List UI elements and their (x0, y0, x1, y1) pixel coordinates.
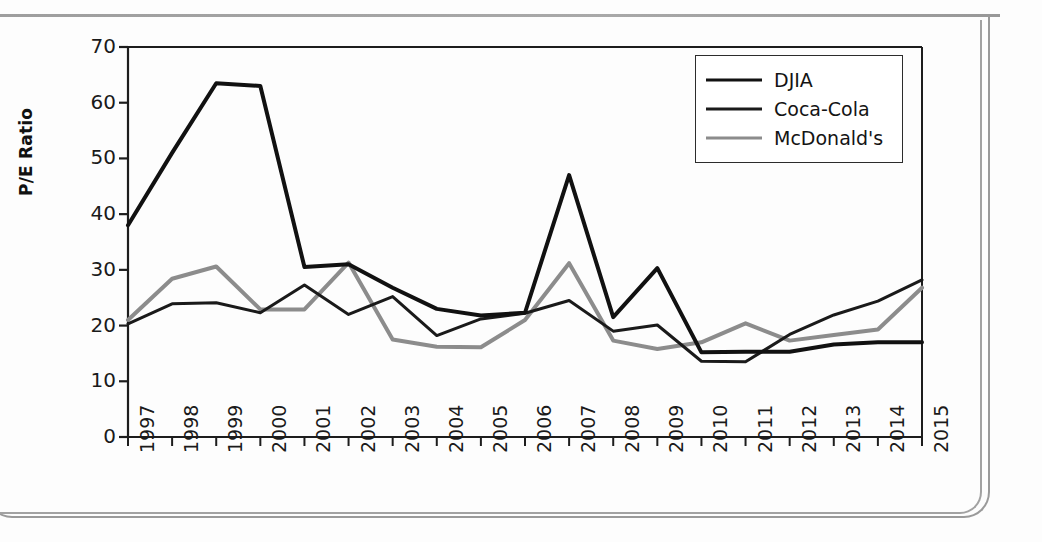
y-tick-label: 40 (91, 201, 116, 225)
x-tick-label: 2007 (577, 405, 599, 453)
pe-ratio-line-chart: P/E Ratio 706050403020100 19971998199920… (0, 0, 1042, 542)
legend-label-djia: DJIA (774, 69, 813, 91)
chart-legend: DJIA Coca-Cola McDonald's (695, 55, 903, 163)
x-tick-label: 2000 (268, 405, 290, 453)
legend-item-djia: DJIA (706, 65, 892, 94)
y-tick-label: 20 (91, 313, 116, 337)
y-tick-label: 30 (91, 257, 116, 281)
x-tick-label: 2015 (930, 405, 952, 453)
x-tick-label: 2006 (533, 405, 555, 453)
y-tick-label: 0 (103, 424, 116, 448)
x-tick-label: 1998 (180, 405, 202, 453)
x-tick-label: 2013 (842, 405, 864, 453)
x-tick-label: 2010 (709, 405, 731, 453)
legend-swatch-mcdonalds (706, 132, 762, 144)
series-line-mcdonald-s (128, 263, 922, 349)
legend-swatch-coca-cola (706, 103, 762, 115)
x-tick-label: 2005 (489, 405, 511, 453)
legend-label-mcdonalds: McDonald's (774, 127, 883, 149)
x-tick-label: 2004 (445, 405, 467, 453)
x-tick-label: 1999 (224, 405, 246, 453)
x-tick-label: 2014 (886, 405, 908, 453)
x-tick-label: 1997 (136, 405, 158, 453)
legend-item-coca-cola: Coca-Cola (706, 94, 892, 123)
legend-label-coca-cola: Coca-Cola (774, 98, 870, 120)
x-tick-label: 2012 (798, 405, 820, 453)
x-tick-label: 2003 (401, 405, 423, 453)
x-tick-label: 2001 (312, 405, 334, 453)
y-tick-label: 50 (91, 145, 116, 169)
y-axis-title: P/E Ratio (16, 108, 36, 196)
x-tick-label: 2011 (754, 405, 776, 453)
y-tick-label: 70 (91, 34, 116, 58)
x-tick-label: 2002 (357, 405, 379, 453)
legend-swatch-djia (706, 74, 762, 86)
x-tick-label: 2008 (621, 405, 643, 453)
legend-item-mcdonalds: McDonald's (706, 123, 892, 152)
x-tick-label: 2009 (665, 405, 687, 453)
y-axis-tick-marks (119, 47, 128, 437)
y-tick-label: 60 (91, 90, 116, 114)
y-tick-label: 10 (91, 368, 116, 392)
